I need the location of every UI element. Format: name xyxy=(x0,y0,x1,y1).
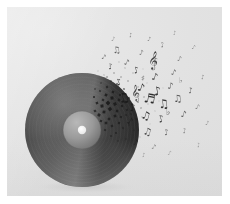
music-note-glyph: ♪ xyxy=(191,43,197,51)
music-note-glyph: ♪ xyxy=(187,86,194,96)
record-fragment xyxy=(102,110,105,113)
music-note-glyph: ♪ xyxy=(150,70,159,82)
record-fragment xyxy=(97,70,98,71)
music-note-glyph: ♪ xyxy=(172,29,177,37)
scene-svg: ♫♪♪♬♪♪♫♪♫♪♪♪♪♫♪♪♫♪♪♪♪♪♪♫♪♪♪♪♪♪♪♪♪♪♪♪♪♪♪♪… xyxy=(7,7,222,196)
music-note-glyph: 𝄞 xyxy=(147,50,158,71)
music-note-glyph: ♪ xyxy=(167,149,173,157)
record-fragment xyxy=(130,113,132,115)
record-center-hole xyxy=(78,126,86,134)
music-note-glyph: ♪ xyxy=(107,62,114,72)
music-note-glyph: ♪ xyxy=(180,109,188,120)
record-fragment xyxy=(110,80,112,82)
music-note-glyph: ♪ xyxy=(200,73,205,80)
music-note-glyph: ♪ xyxy=(167,81,174,92)
record-fragment xyxy=(154,110,155,111)
music-note-glyph: ♯ xyxy=(141,74,145,83)
artwork-container: ♫♪♪♬♪♪♫♪♫♪♪♪♪♫♪♪♫♪♪♪♪♪♪♫♪♪♪♪♪♪♪♪♪♪♪♪♪♪♪♪… xyxy=(0,0,230,204)
record-fragment xyxy=(115,132,117,134)
music-note-glyph: ♪ xyxy=(176,55,182,64)
dispersion-scene: ♫♪♪♬♪♪♫♪♫♪♪♪♪♫♪♪♫♪♪♪♪♪♪♫♪♪♪♪♪♪♪♪♪♪♪♪♪♪♪♪… xyxy=(7,7,222,196)
music-note-glyph: ♭ xyxy=(166,107,170,117)
music-note-glyph: ♪ xyxy=(170,68,177,78)
record-fragment xyxy=(142,68,143,69)
record-fragment xyxy=(118,61,119,62)
record-fragment xyxy=(120,76,122,78)
artwork-canvas: ♫♪♪♬♪♪♫♪♫♪♪♪♪♫♪♪♫♪♪♪♪♪♪♫♪♪♪♪♪♪♪♪♪♪♪♪♪♪♪♪… xyxy=(7,7,222,196)
music-note-glyph: ♪ xyxy=(100,53,107,62)
record-fragment xyxy=(149,123,150,124)
record-fragment xyxy=(146,82,147,83)
music-note-glyph: ♪ xyxy=(182,127,188,136)
music-note-glyph: ♪ xyxy=(138,49,144,58)
record-fragment xyxy=(103,74,104,75)
music-note-glyph: ♫ xyxy=(139,108,152,123)
record-fragment xyxy=(106,76,108,78)
music-note-glyph: ♪ xyxy=(194,103,201,112)
record-fragment xyxy=(140,107,141,108)
record-fragment xyxy=(110,96,113,99)
record-fragment xyxy=(113,72,114,73)
music-note-glyph: ♪ xyxy=(129,102,137,114)
music-note-glyph: ♫ xyxy=(142,125,153,138)
record-fragment xyxy=(105,122,108,125)
music-note-glyph: ♭ xyxy=(179,76,183,85)
music-note-glyph: ♪ xyxy=(147,35,152,42)
record-fragment xyxy=(117,140,119,142)
music-note-glyph: ♪ xyxy=(156,112,165,124)
record-fragment xyxy=(127,80,129,82)
music-note-glyph: ♪ xyxy=(141,151,146,158)
record-fragment xyxy=(124,67,125,68)
music-note-glyph: ♫ xyxy=(112,45,121,56)
music-note-glyph: ♪ xyxy=(205,119,210,127)
music-note-glyph: ♪ xyxy=(132,65,140,76)
music-note-glyph: ♪ xyxy=(159,41,166,50)
music-note-glyph: ♪ xyxy=(128,31,134,39)
music-note-glyph: ♪ xyxy=(123,58,131,68)
music-note-glyph: ♫ xyxy=(173,93,183,105)
record-fragment xyxy=(116,110,119,113)
record-fragment xyxy=(93,96,95,98)
record-fragment xyxy=(100,104,103,107)
music-note-glyph: ♪ xyxy=(150,143,157,152)
record-fragment xyxy=(139,136,140,137)
music-note-glyph: ♪ xyxy=(163,128,170,138)
music-note-glyph: ♪ xyxy=(195,141,201,149)
record-fragment xyxy=(163,88,164,89)
music-note-glyph: ♪ xyxy=(111,35,116,43)
record-fragment xyxy=(137,101,139,103)
